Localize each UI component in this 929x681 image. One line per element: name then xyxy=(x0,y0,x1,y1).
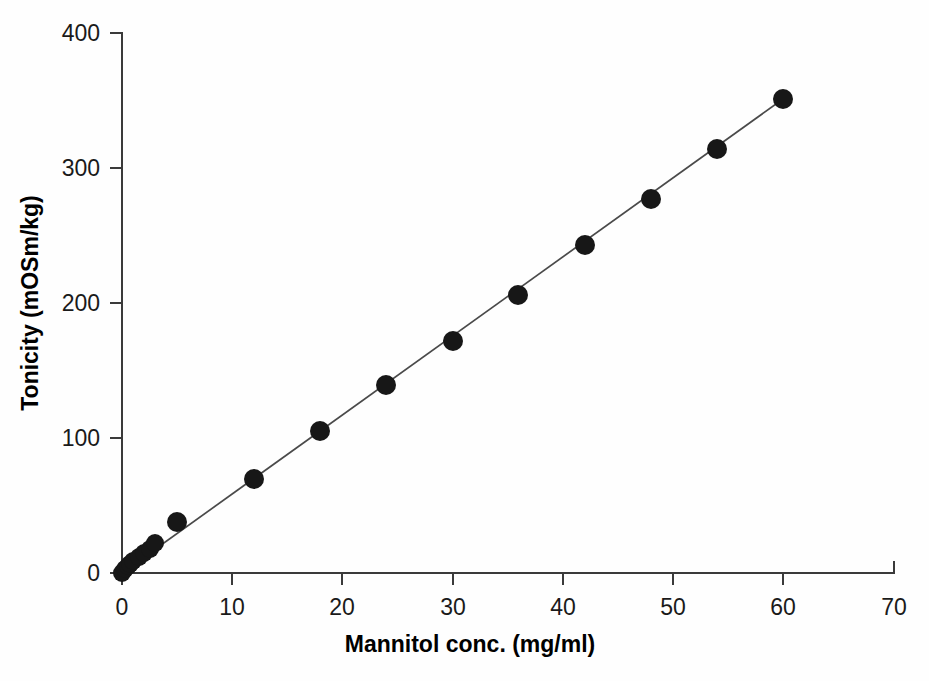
x-tick-label-30: 30 xyxy=(440,594,466,620)
data-point xyxy=(508,285,528,305)
x-tick-label-20: 20 xyxy=(329,594,355,620)
y-axis-title: Tonicity (mOSm/kg) xyxy=(17,195,43,411)
chart-figure: 0 100 200 300 400 0 10 20 30 40 50 60 70 xyxy=(0,0,929,681)
y-tick-label-100: 100 xyxy=(62,425,100,451)
x-axis-title: Mannitol conc. (mg/ml) xyxy=(345,631,595,657)
x-tick-label-60: 60 xyxy=(770,594,796,620)
data-point xyxy=(167,512,187,532)
y-tick-label-300: 300 xyxy=(62,155,100,181)
y-axis-tick-labels: 0 100 200 300 400 xyxy=(62,20,100,586)
x-tick-label-40: 40 xyxy=(550,594,576,620)
data-point xyxy=(773,89,793,109)
data-point xyxy=(310,421,330,441)
x-tick-label-0: 0 xyxy=(116,594,129,620)
data-point xyxy=(244,469,264,489)
data-point xyxy=(707,139,727,159)
data-point xyxy=(641,189,661,209)
y-tick-label-200: 200 xyxy=(62,290,100,316)
x-tick-label-50: 50 xyxy=(660,594,686,620)
x-tick-label-70: 70 xyxy=(881,594,907,620)
y-tick-label-400: 400 xyxy=(62,20,100,46)
data-point xyxy=(575,235,595,255)
scatter-plot-svg: 0 100 200 300 400 0 10 20 30 40 50 60 70 xyxy=(0,0,929,681)
y-tick-label-0: 0 xyxy=(87,560,100,586)
x-axis-tick-labels: 0 10 20 30 40 50 60 70 xyxy=(116,594,907,620)
data-point xyxy=(146,534,164,552)
data-point-group xyxy=(113,89,793,582)
data-point xyxy=(443,331,463,351)
y-axis-ticks xyxy=(110,33,122,573)
x-tick-label-10: 10 xyxy=(219,594,245,620)
data-point xyxy=(376,375,396,395)
